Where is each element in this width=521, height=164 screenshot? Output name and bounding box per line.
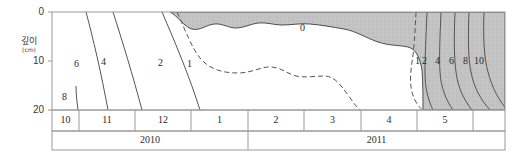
y-tick-20: 20: [24, 104, 44, 115]
month-label-2: 2: [248, 114, 304, 125]
contour-label-6: 6: [74, 58, 79, 69]
contour-label-10-right: 10: [474, 55, 484, 66]
contour-label-1-right: 1: [415, 55, 420, 66]
y-axis-label: 깊이 (cm): [19, 36, 39, 54]
contour-label-4-right: 4: [435, 55, 440, 66]
year-label-2011: 2011: [248, 134, 505, 145]
contour-line-8: [76, 86, 78, 110]
month-label-4: 4: [361, 114, 417, 125]
contour-lines-left: [76, 12, 200, 110]
contour-label-4: 4: [101, 56, 106, 67]
contour-label-6-right: 6: [449, 55, 454, 66]
y-axis-ticks: [48, 12, 52, 110]
contour-label-1: 1: [187, 58, 192, 69]
contour-label-2-right: 2: [422, 55, 427, 66]
contour-label-8-right: 8: [463, 55, 468, 66]
contour-label-2: 2: [158, 57, 163, 68]
month-label-10: 10: [52, 114, 79, 125]
month-label-12: 12: [135, 114, 191, 125]
month-label-5: 5: [417, 114, 473, 125]
month-label-3: 3: [304, 114, 361, 125]
y-tick-0: 0: [24, 6, 44, 17]
contour-label-0: 0: [300, 22, 305, 33]
year-label-2010: 2010: [52, 134, 248, 145]
y-axis-label-unit: (cm): [19, 46, 39, 54]
contour-chart-figure: 깊이 (cm) 0 10 20 8 6 4 2 1 0 1 2 4 6 8 10…: [0, 0, 521, 164]
contour-label-8: 8: [62, 91, 67, 102]
contour-line-4: [113, 12, 142, 110]
y-tick-10: 10: [24, 55, 44, 66]
month-label-1: 1: [191, 114, 248, 125]
month-label-11: 11: [79, 114, 135, 125]
y-axis-label-text: 깊이: [21, 36, 37, 46]
